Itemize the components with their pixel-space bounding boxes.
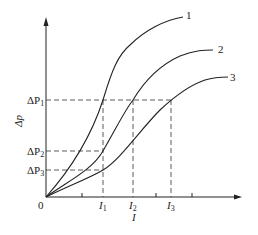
- x-ticks: [82, 193, 192, 197]
- x-tick-label-i1: I1: [99, 200, 107, 213]
- y-axis-label: Δp: [12, 115, 24, 127]
- curve-label-2: 2: [218, 44, 224, 55]
- x-axis-label: I: [132, 212, 136, 223]
- y-axis-arrow-icon: [44, 17, 49, 26]
- origin-label: 0: [38, 200, 44, 211]
- curve-label-1: 1: [186, 10, 192, 21]
- y-tick-label-dp2: ΔP2: [27, 146, 44, 159]
- x-axis-arrow-icon: [234, 195, 242, 200]
- x-tick-label-i3: I3: [167, 200, 175, 213]
- curve-label-3: 3: [230, 72, 236, 83]
- curve-2: [46, 50, 213, 197]
- dashed-guides: [46, 100, 171, 197]
- y-tick-label-dp3: ΔP3: [27, 165, 44, 178]
- y-tick-label-dp1: ΔP1: [27, 95, 44, 108]
